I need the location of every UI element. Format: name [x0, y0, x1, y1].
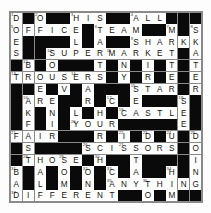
- crossword-letter-cell[interactable]: R: [166, 84, 177, 95]
- crossword-letter-cell[interactable]: F: [35, 24, 46, 35]
- crossword-letter-cell[interactable]: C: [94, 143, 105, 154]
- crossword-letter-cell[interactable]: E: [82, 48, 93, 59]
- crossword-letter-cell[interactable]: E: [58, 190, 69, 201]
- crossword-letter-cell[interactable]: 14E: [70, 72, 81, 83]
- crossword-letter-cell[interactable]: E: [190, 72, 201, 83]
- crossword-letter-cell[interactable]: E: [70, 24, 81, 35]
- crossword-letter-cell[interactable]: A: [23, 131, 34, 142]
- crossword-letter-cell[interactable]: 11M: [106, 48, 117, 59]
- crossword-letter-cell[interactable]: R: [23, 72, 34, 83]
- crossword-letter-cell[interactable]: O: [35, 72, 46, 83]
- crossword-letter-cell[interactable]: U: [46, 72, 57, 83]
- crossword-letter-cell[interactable]: S: [11, 48, 22, 59]
- crossword-letter-cell[interactable]: S: [166, 143, 177, 154]
- crossword-letter-cell[interactable]: 1D: [11, 13, 22, 24]
- crossword-letter-cell[interactable]: T: [130, 155, 141, 166]
- crossword-letter-cell[interactable]: 17C: [106, 95, 117, 106]
- crossword-letter-cell[interactable]: E: [106, 24, 117, 35]
- crossword-letter-cell[interactable]: T: [166, 60, 177, 71]
- crossword-letter-cell[interactable]: E: [166, 72, 177, 83]
- crossword-letter-cell[interactable]: 8S: [190, 24, 201, 35]
- crossword-letter-cell[interactable]: P: [70, 48, 81, 59]
- crossword-letter-cell[interactable]: 20Y: [70, 119, 81, 130]
- crossword-letter-cell[interactable]: T: [190, 60, 201, 71]
- crossword-letter-cell[interactable]: L: [166, 107, 177, 118]
- crossword-letter-cell[interactable]: L: [142, 13, 153, 24]
- crossword-letter-cell[interactable]: N: [82, 178, 93, 189]
- crossword-letter-cell[interactable]: 26S: [82, 143, 93, 154]
- crossword-letter-cell[interactable]: 7M: [166, 24, 177, 35]
- crossword-letter-cell[interactable]: A: [130, 107, 141, 118]
- crossword-letter-cell[interactable]: N: [190, 166, 201, 177]
- crossword-letter-cell[interactable]: R: [154, 143, 165, 154]
- crossword-letter-cell[interactable]: E: [178, 107, 189, 118]
- crossword-letter-cell[interactable]: O: [142, 143, 153, 154]
- crossword-letter-cell[interactable]: I: [23, 190, 34, 201]
- crossword-letter-cell[interactable]: A: [82, 84, 93, 95]
- crossword-letter-cell[interactable]: L: [70, 36, 81, 47]
- crossword-letter-cell[interactable]: E: [70, 155, 81, 166]
- crossword-letter-cell[interactable]: S: [58, 72, 69, 83]
- crossword-letter-cell[interactable]: I: [190, 155, 201, 166]
- crossword-letter-cell[interactable]: E: [154, 48, 165, 59]
- crossword-letter-cell[interactable]: 37D: [11, 190, 22, 201]
- crossword-letter-cell[interactable]: 3H: [70, 13, 81, 24]
- crossword-letter-cell[interactable]: A: [118, 48, 129, 59]
- crossword-letter-cell[interactable]: S: [142, 107, 153, 118]
- crossword-letter-cell[interactable]: E: [82, 190, 93, 201]
- crossword-letter-cell[interactable]: 28T: [23, 155, 34, 166]
- crossword-letter-cell[interactable]: N: [118, 178, 129, 189]
- crossword-letter-cell[interactable]: M: [58, 178, 69, 189]
- crossword-letter-cell[interactable]: Y: [118, 72, 129, 83]
- crossword-letter-cell[interactable]: I: [166, 178, 177, 189]
- crossword-letter-cell[interactable]: 29S: [58, 155, 69, 166]
- crossword-letter-cell[interactable]: 25D: [190, 131, 201, 142]
- crossword-letter-cell[interactable]: T: [142, 84, 153, 95]
- crossword-letter-cell[interactable]: O: [142, 190, 153, 201]
- crossword-letter-cell[interactable]: H: [35, 155, 46, 166]
- crossword-letter-cell[interactable]: R: [190, 84, 201, 95]
- crossword-letter-cell[interactable]: K: [142, 48, 153, 59]
- crossword-letter-cell[interactable]: 21F: [11, 131, 22, 142]
- crossword-letter-cell[interactable]: R: [70, 190, 81, 201]
- crossword-letter-cell[interactable]: 24U: [166, 131, 177, 142]
- crossword-letter-cell[interactable]: O: [190, 143, 201, 154]
- crossword-letter-cell[interactable]: I: [46, 119, 57, 130]
- crossword-letter-cell[interactable]: V: [58, 84, 69, 95]
- crossword-letter-cell[interactable]: L: [70, 107, 81, 118]
- crossword-letter-cell[interactable]: A: [154, 36, 165, 47]
- crossword-letter-cell[interactable]: E: [46, 95, 57, 106]
- crossword-letter-cell[interactable]: 32O: [82, 166, 93, 177]
- crossword-letter-cell[interactable]: R: [82, 95, 93, 106]
- crossword-letter-cell[interactable]: R: [94, 48, 105, 59]
- crossword-letter-cell[interactable]: 2O: [35, 13, 46, 24]
- crossword-letter-cell[interactable]: K: [178, 36, 189, 47]
- crossword-letter-cell[interactable]: S: [130, 143, 141, 154]
- crossword-letter-cell[interactable]: H: [142, 36, 153, 47]
- crossword-grid[interactable]: 1D2O3HIS4ALL5OFFICE6TEAM7M8SELA9SHARKKS1…: [9, 11, 203, 203]
- crossword-letter-cell[interactable]: 16A: [23, 95, 34, 106]
- crossword-letter-cell[interactable]: T: [94, 60, 105, 71]
- crossword-letter-cell[interactable]: U: [94, 119, 105, 130]
- crossword-letter-cell[interactable]: K: [23, 107, 34, 118]
- crossword-letter-cell[interactable]: 4A: [130, 13, 141, 24]
- crossword-letter-cell[interactable]: S: [94, 13, 105, 24]
- crossword-letter-cell[interactable]: 23D: [142, 131, 153, 142]
- crossword-letter-cell[interactable]: F: [23, 24, 34, 35]
- crossword-letter-cell[interactable]: R: [106, 119, 117, 130]
- crossword-letter-cell[interactable]: 6T: [94, 24, 105, 35]
- crossword-letter-cell[interactable]: 19C: [118, 107, 129, 118]
- crossword-letter-cell[interactable]: A: [154, 84, 165, 95]
- crossword-letter-cell[interactable]: A: [190, 48, 201, 59]
- crossword-letter-cell[interactable]: O: [58, 166, 69, 177]
- crossword-letter-cell[interactable]: 15S: [130, 84, 141, 95]
- crossword-letter-cell[interactable]: T: [154, 107, 165, 118]
- crossword-letter-cell[interactable]: O: [82, 119, 93, 130]
- crossword-letter-cell[interactable]: Y: [130, 178, 141, 189]
- crossword-letter-cell[interactable]: 31B: [11, 166, 22, 177]
- crossword-letter-cell[interactable]: 36T: [142, 178, 153, 189]
- crossword-letter-cell[interactable]: R: [166, 36, 177, 47]
- crossword-letter-cell[interactable]: I: [82, 13, 93, 24]
- crossword-letter-cell[interactable]: A: [11, 178, 22, 189]
- crossword-letter-cell[interactable]: M: [130, 24, 141, 35]
